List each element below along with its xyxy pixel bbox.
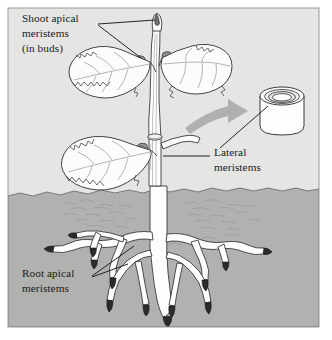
label-line: Shoot apical	[22, 12, 79, 24]
plant-meristem-figure: Shoot apical meristems (in buds) Lateral…	[0, 0, 332, 340]
label-line: meristems	[214, 161, 261, 173]
apical-bud	[152, 14, 162, 32]
diagram-canvas: Shoot apical meristems (in buds) Lateral…	[0, 0, 332, 340]
stem-node	[148, 134, 162, 140]
label-line: meristems	[22, 27, 69, 39]
label-line: Lateral	[214, 146, 246, 158]
label-line: meristems	[22, 282, 69, 294]
cambium-cylinder	[260, 87, 304, 135]
label-line: (in buds)	[22, 42, 63, 55]
label-line: Root apical	[22, 267, 74, 279]
